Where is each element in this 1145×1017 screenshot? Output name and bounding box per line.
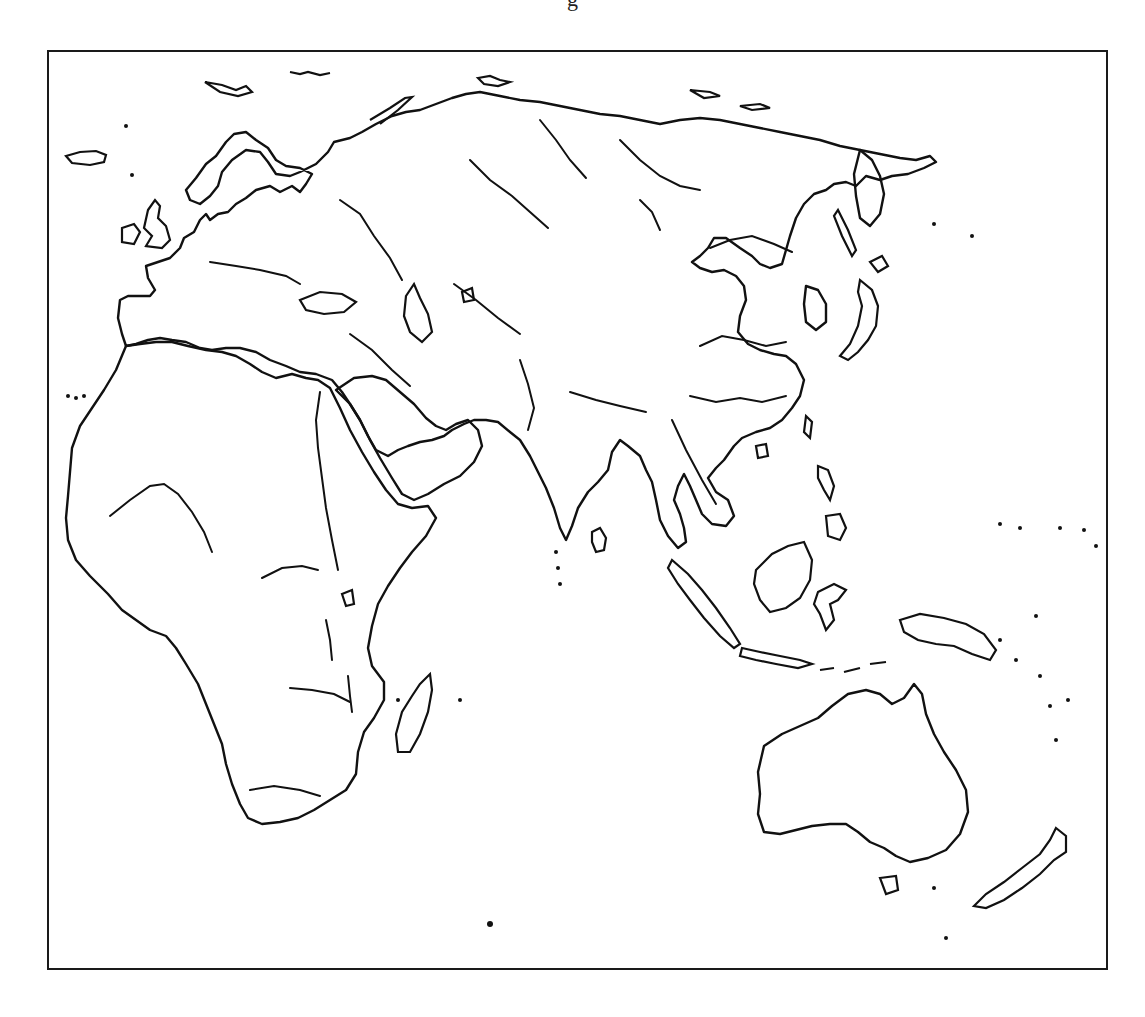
great-britain (144, 200, 170, 248)
volga-river (340, 200, 402, 280)
mekong-river (672, 420, 716, 504)
island-dot (1018, 526, 1022, 530)
island-dot (944, 936, 948, 940)
orange-river (250, 786, 320, 796)
philippines-luzon (818, 466, 834, 500)
caspian-sea (404, 284, 432, 342)
tasmania (880, 876, 898, 894)
franz-josef-land (290, 72, 330, 75)
sumatra (668, 560, 740, 648)
iceland (66, 151, 106, 165)
wrangel-island (740, 104, 770, 110)
borneo (754, 542, 812, 612)
sri-lanka (592, 528, 606, 552)
island-dot (1014, 658, 1018, 662)
new-guinea (900, 614, 996, 660)
island-dot (1058, 526, 1062, 530)
lake-victoria (342, 590, 354, 606)
yangtze-river (690, 396, 786, 402)
island-dot (124, 124, 128, 128)
new-zealand (974, 828, 1066, 908)
hokkaido (870, 256, 888, 272)
africa-coastline (66, 342, 436, 824)
island-dot (66, 394, 70, 398)
island-dot (74, 396, 78, 400)
lake-tanganyika (326, 620, 332, 660)
japan (840, 280, 878, 360)
island-dot (558, 582, 562, 586)
island-dot (458, 698, 462, 702)
indus-river (520, 360, 534, 430)
new-siberian-islands (690, 90, 720, 98)
ireland (122, 224, 140, 244)
ganges-river (570, 392, 646, 412)
island-dot (554, 550, 558, 554)
black-sea (300, 292, 356, 314)
severnaya-zemlya (478, 76, 510, 86)
sakhalin (834, 210, 856, 256)
niger-river (110, 484, 212, 552)
island-dot (487, 921, 493, 927)
arabian-peninsula (336, 376, 482, 500)
island-dot (998, 522, 1002, 526)
hainan (756, 444, 768, 458)
novaya-zemlya (370, 97, 412, 124)
island-dot (998, 638, 1002, 642)
kamchatka (854, 150, 884, 226)
sulawesi (814, 584, 846, 630)
island-dot (1048, 704, 1052, 708)
eurasia-coastline (118, 92, 936, 548)
island-dot (130, 173, 134, 177)
lesser-sunda-islands (820, 662, 886, 672)
island-dot (1082, 528, 1086, 532)
island-dot (970, 234, 974, 238)
lake-baikal (640, 200, 660, 230)
ob-river (470, 160, 548, 228)
madagascar (396, 674, 432, 752)
island-dot (1066, 698, 1070, 702)
lake-malawi (348, 676, 352, 712)
island-dot (932, 886, 936, 890)
philippines-mindanao (826, 514, 846, 540)
island-dot (932, 222, 936, 226)
java (740, 648, 812, 668)
island-dot (396, 698, 400, 702)
australia-coastline (758, 684, 968, 862)
island-dot (82, 394, 86, 398)
island-dot (556, 566, 560, 570)
lena-river (620, 140, 700, 190)
congo-river (262, 566, 318, 578)
outline-map (0, 0, 1145, 1017)
zambezi-river (290, 688, 350, 702)
yenisei-river (540, 120, 586, 178)
syr-darya-river (454, 284, 520, 334)
island-dot (1038, 674, 1042, 678)
svalbard (205, 82, 252, 96)
island-dot (1054, 738, 1058, 742)
nile-river (316, 392, 338, 570)
korea (804, 286, 826, 330)
island-dot (1094, 544, 1098, 548)
island-dot (1034, 614, 1038, 618)
taiwan (804, 416, 812, 438)
danube-river (210, 262, 300, 284)
